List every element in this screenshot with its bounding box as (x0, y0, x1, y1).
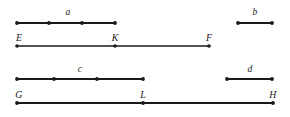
segment-d-endpoint-left (225, 77, 229, 81)
point-label-F: F (206, 33, 212, 43)
segment-c-endpoint-left (15, 77, 19, 81)
point-F (207, 44, 211, 48)
segment-c-tick-1 (52, 77, 56, 81)
point-label-G: G (15, 90, 22, 100)
segment-a-endpoint-left (15, 21, 19, 25)
segment-label-d: d (248, 64, 253, 74)
segment-b-endpoint-right (270, 21, 274, 25)
point-label-K: K (112, 33, 119, 43)
segment-a-tick-1 (47, 21, 51, 25)
segment-c-group (15, 77, 145, 81)
segment-d-endpoint-right (270, 77, 274, 81)
segment-label-b: b (253, 7, 258, 17)
point-label-E: E (16, 33, 22, 43)
line-segment-diagram: a b c d E K F G L H (0, 0, 290, 117)
segment-c-endpoint-right (141, 77, 145, 81)
point-label-H: H (269, 90, 276, 100)
segment-label-c: c (78, 64, 82, 74)
segment-ef-group (15, 44, 211, 48)
segment-b-group (236, 21, 274, 25)
segment-c-tick-2 (95, 77, 99, 81)
segment-a-tick-2 (80, 21, 84, 25)
point-K (113, 44, 117, 48)
segment-a-group (15, 21, 117, 25)
segment-d-group (225, 77, 274, 81)
segment-label-a: a (66, 7, 71, 17)
point-label-L: L (140, 90, 146, 100)
point-G (15, 101, 19, 105)
segment-b-endpoint-left (236, 21, 240, 25)
point-L (141, 101, 145, 105)
point-E (15, 44, 19, 48)
point-H (271, 101, 275, 105)
segment-gh-group (15, 101, 275, 105)
segment-a-endpoint-right (113, 21, 117, 25)
